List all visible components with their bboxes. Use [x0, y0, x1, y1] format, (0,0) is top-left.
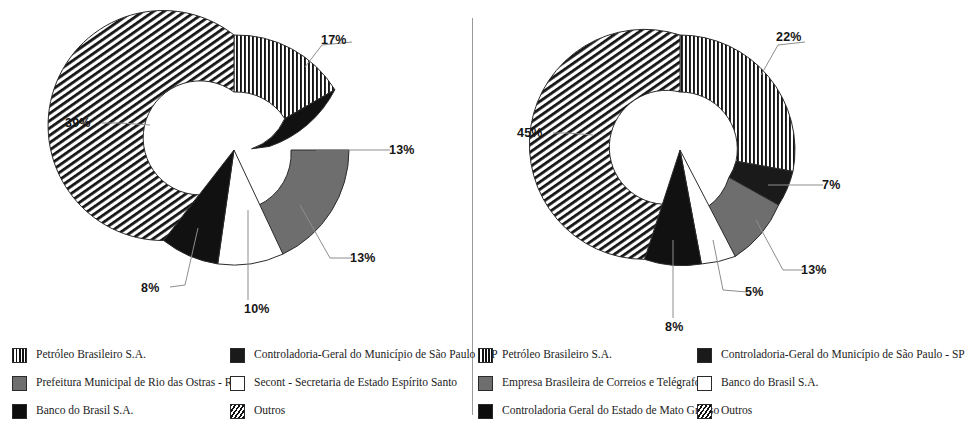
swatch-black-icon: [478, 404, 493, 419]
legend-item[interactable]: Secont - Secretaria de Estado Espírito S…: [230, 373, 498, 393]
left-legend-column-1: Petróleo Brasileiro S.A. Prefeitura Muni…: [12, 345, 237, 429]
swatch-gray-icon: [478, 376, 493, 391]
legend-item-label: Petróleo Brasileiro S.A.: [36, 349, 146, 361]
left-label-10: 10%: [244, 302, 270, 316]
left-label-13a: 13%: [389, 143, 415, 157]
left-label-39: 39%: [65, 116, 91, 130]
right-legend-column-1: Petróleo Brasileiro S.A. Empresa Brasile…: [478, 345, 719, 429]
left-donut-chart: [0, 0, 472, 340]
swatch-diagonal-stripes-icon: [230, 404, 245, 419]
right-label-8: 8%: [665, 320, 683, 334]
legend-item-label: Empresa Brasileira de Correios e Telégra…: [502, 377, 705, 389]
legend-item[interactable]: Banco do Brasil S.A.: [697, 373, 965, 393]
swatch-vertical-stripes-icon: [12, 348, 27, 363]
left-donut-segments: [48, 11, 349, 266]
legend-item-label: Prefeitura Municipal de Rio das Ostras -…: [36, 377, 237, 389]
legend-item[interactable]: Petróleo Brasileiro S.A.: [12, 345, 237, 365]
right-donut-segments: [529, 29, 795, 265]
left-label-13b: 13%: [350, 251, 376, 265]
legend-item[interactable]: Outros: [230, 401, 498, 421]
swatch-white-icon: [230, 376, 245, 391]
legend-item-label: Outros: [254, 405, 285, 417]
legend-item[interactable]: Prefeitura Municipal de Rio das Ostras -…: [12, 373, 237, 393]
right-label-22: 22%: [776, 30, 802, 44]
legend-item-label: Secont - Secretaria de Estado Espírito S…: [254, 377, 457, 389]
legend-item-label: Banco do Brasil S.A.: [36, 405, 133, 417]
swatch-diagonal-stripes-icon: [697, 404, 712, 419]
left-label-8: 8%: [141, 281, 159, 295]
left-label-17: 17%: [321, 33, 347, 47]
right-legend-column-2: Controladoria-Geral do Município de São …: [697, 345, 965, 429]
legend-item-label: Outros: [721, 405, 752, 417]
right-label-5: 5%: [745, 285, 763, 299]
right-label-13: 13%: [801, 263, 827, 277]
swatch-gray-icon: [12, 376, 27, 391]
swatch-dark-icon: [697, 348, 712, 363]
right-label-45: 45%: [517, 126, 543, 140]
legend-item-label: Controladoria-Geral do Município de São …: [721, 349, 965, 361]
legend-item-label: Controladoria Geral do Estado de Mato Gr…: [502, 405, 719, 417]
swatch-white-icon: [697, 376, 712, 391]
legend-item[interactable]: Outros: [697, 401, 965, 421]
right-chart-panel: 22% 7% 13% 5% 8% 45% Petróleo Brasileiro…: [473, 0, 931, 430]
legend-item[interactable]: Banco do Brasil S.A.: [12, 401, 237, 421]
legend-item-label: Controladoria-Geral do Município de São …: [254, 349, 498, 361]
legend-item[interactable]: Controladoria Geral do Estado de Mato Gr…: [478, 401, 719, 421]
legend-item[interactable]: Petróleo Brasileiro S.A.: [478, 345, 719, 365]
legend-item[interactable]: Controladoria-Geral do Município de São …: [230, 345, 498, 365]
left-legend-column-2: Controladoria-Geral do Município de São …: [230, 345, 498, 429]
segment-petroleo-brasileiro: [680, 35, 795, 171]
legend-item-label: Banco do Brasil S.A.: [721, 377, 818, 389]
left-chart-panel: 17% 13% 13% 10% 8% 39% Petróleo Brasilei…: [0, 0, 472, 430]
legend-item[interactable]: Empresa Brasileira de Correios e Telégra…: [478, 373, 719, 393]
swatch-black-icon: [12, 404, 27, 419]
legend-item-label: Petróleo Brasileiro S.A.: [502, 349, 612, 361]
right-donut-chart: [473, 0, 931, 340]
swatch-vertical-stripes-icon: [478, 348, 493, 363]
right-label-7: 7%: [822, 178, 840, 192]
legend-item[interactable]: Controladoria-Geral do Município de São …: [697, 345, 965, 365]
swatch-dark-icon: [230, 348, 245, 363]
